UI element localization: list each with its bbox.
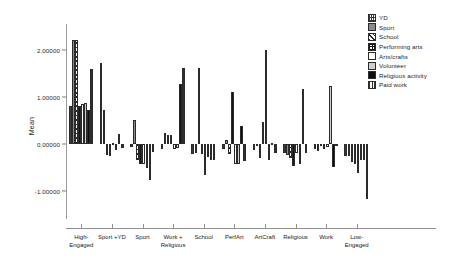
legend-swatch [368,81,376,89]
legend-swatch [368,52,376,60]
bar [130,144,132,147]
bar [329,86,331,144]
bar [237,144,239,165]
x-axis-tick-mark [81,224,82,228]
bar [103,110,105,144]
bar [90,69,92,144]
bar-cluster [344,24,368,219]
bar-cluster [69,24,93,219]
bar [161,144,163,149]
bars-layer [66,24,372,219]
bar [195,144,197,153]
bar [259,144,261,158]
legend: YDSportSchoolPerforming artsArts/craftsV… [368,13,454,90]
bar [302,89,304,144]
x-axis-tick-mark [357,224,358,228]
legend-label: Sport [379,24,394,31]
y-axis-tick-label: -1.00000 [35,187,66,194]
legend-item: Religious activity [368,71,454,81]
bar [170,135,172,143]
legend-item: Sport [368,23,454,33]
bar-cluster [100,24,124,219]
bar [222,144,224,150]
legend-label: Performing arts [379,43,423,50]
bar [182,68,184,144]
x-axis-tick-mark [173,224,174,228]
bar-cluster [130,24,154,219]
bar [299,144,301,165]
bar-chart-figure: Mean 2.000001.000000.00000-1.00000 High-… [0,0,454,264]
bar [152,144,154,152]
x-axis-tick-mark [296,224,297,228]
bar [305,144,307,153]
bar-cluster [253,24,277,219]
x-axis-tick-mark [326,224,327,228]
legend-item: School [368,32,454,42]
legend-label: YD [379,14,388,21]
legend-swatch [368,43,376,51]
bar-cluster [191,24,215,219]
x-axis-tick-mark [112,224,113,228]
bar [231,92,233,144]
bar [228,144,230,154]
bar-cluster [283,24,307,219]
legend-swatch [368,23,376,31]
legend-item: Paid work [368,80,454,90]
x-axis-tick-mark [204,224,205,228]
legend-swatch [368,33,376,41]
bar [121,144,123,148]
x-axis-line [66,228,436,229]
y-axis-tick-label: 1.00000 [37,93,66,100]
bar [268,144,270,160]
legend-label: School [379,33,399,40]
bar-cluster [314,24,338,219]
y-axis-label: Mean [28,96,35,156]
x-axis-tick-mark [234,224,235,228]
y-axis-tick-label: 2.00000 [37,46,66,53]
x-axis-tick-mark [143,224,144,228]
bar [332,144,334,167]
x-axis-tick-label: Low-Engaged [329,234,385,249]
legend-swatch [368,71,376,79]
legend-swatch [368,62,376,70]
x-axis-tick-mark [265,224,266,228]
legend-swatch [368,14,376,22]
legend-label: Paid work [379,81,407,88]
legend-item: Arts/crafts [368,51,454,61]
bar [240,126,242,144]
y-axis-tick-label: 0.00000 [37,140,66,147]
bar [243,144,245,161]
bar [115,144,117,151]
bar [326,144,328,147]
bar-cluster [161,24,185,219]
legend-label: Volunteer [379,62,406,69]
legend-item: YD [368,13,454,23]
legend-label: Arts/crafts [379,53,408,60]
bar [198,68,200,144]
bar [118,134,120,143]
bar [176,144,178,148]
legend-item: Performing arts [368,42,454,52]
plot-area: 2.000001.000000.00000-1.00000 [66,24,372,219]
bar [366,144,368,199]
bar [109,144,111,156]
bar [265,50,267,144]
legend-label: Religious activity [379,72,427,79]
bar [274,144,276,153]
bar [133,120,135,143]
bar [213,144,215,160]
bar [335,144,337,146]
bar-cluster [222,24,246,219]
legend-item: Volunteer [368,61,454,71]
